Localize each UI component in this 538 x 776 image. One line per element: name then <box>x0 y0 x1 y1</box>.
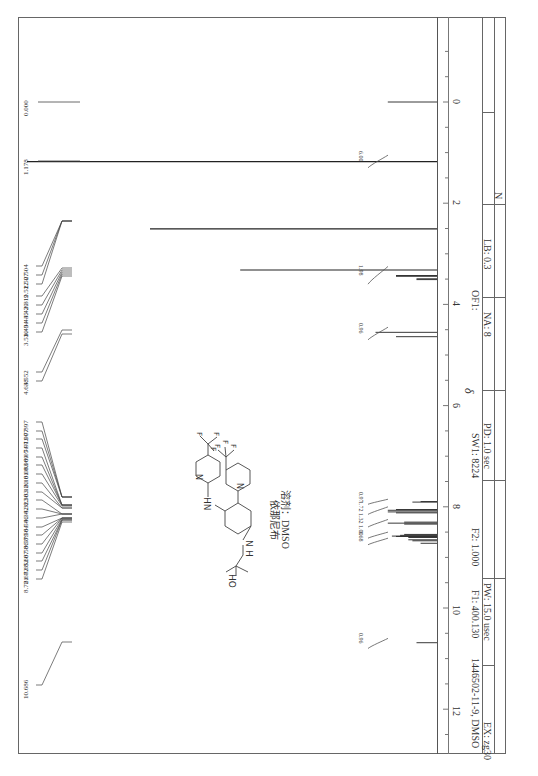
solvent-label: 溶剂：DMSO <box>279 490 294 549</box>
param-ex: EX: zg30 <box>482 722 493 760</box>
peak-label: 10.686 <box>22 680 30 699</box>
param-n: N <box>493 192 504 199</box>
integral-value: 1.98 <box>358 265 364 276</box>
atom-label-ho: HO <box>227 574 237 588</box>
peak-label: 8.721 <box>22 577 30 593</box>
peak-label: 0.000 <box>22 100 30 116</box>
atom-label-hn: HN <box>202 497 212 511</box>
atom-label-n: N <box>194 474 203 480</box>
integral-value: 0.96 <box>358 633 364 644</box>
atom-label-n: N <box>235 483 244 489</box>
param-na: NA: 8 <box>482 312 493 337</box>
delta-axis-label: δ <box>461 388 476 394</box>
param-lb: LB: 0.3 <box>482 239 493 270</box>
param-pd: PD: 1.0 sec <box>482 423 493 469</box>
ppm-ticks <box>443 51 448 734</box>
atom-label-f: F <box>229 444 237 448</box>
param-sw: SW1: 8224 <box>470 433 481 478</box>
integral-value: 1.68 <box>358 531 364 542</box>
integral-value: 0.96 <box>358 323 364 334</box>
ppm-tick-label: 12 <box>451 706 462 716</box>
param-sample: 1446502-11-9, DMSO <box>470 658 481 748</box>
atom-label-h: H <box>244 550 254 557</box>
param-pw: PW: 15.0 usec <box>482 583 493 641</box>
ppm-tick-label: 10 <box>451 605 462 615</box>
ppm-tick-label: 8 <box>451 504 462 509</box>
peaks <box>27 102 437 643</box>
atom-label-nh: N <box>244 540 254 547</box>
param-sf: F1: 400.130 <box>470 590 481 638</box>
atom-label-f: F <box>212 432 220 436</box>
peak-label: 1.178 <box>22 159 30 175</box>
peak-label-leaders <box>36 102 80 685</box>
nmr-spectrum-chart <box>0 0 538 776</box>
atom-label-f: F <box>221 440 229 444</box>
param-of: OF1: <box>470 290 481 311</box>
peak-label: 3.510 <box>22 330 30 346</box>
nmr-page: HN N H HO N N F F F F F F 依那尼布 溶剂：DMSO δ… <box>0 0 538 776</box>
integral-value: 1.72 <box>358 501 364 512</box>
ppm-tick-label: 0 <box>451 99 462 104</box>
ppm-tick-label: 6 <box>451 403 462 408</box>
peak-label: 4.638 <box>22 379 30 395</box>
integral-value: 1.32 <box>358 513 364 524</box>
ppm-tick-label: 2 <box>451 200 462 205</box>
atom-label-f: F <box>195 432 203 436</box>
integral-value: 6.00 <box>358 151 364 162</box>
param-f2: F2: 1.000 <box>470 528 481 566</box>
atom-label-f: F <box>213 444 221 448</box>
ppm-tick-label: 4 <box>451 301 462 306</box>
